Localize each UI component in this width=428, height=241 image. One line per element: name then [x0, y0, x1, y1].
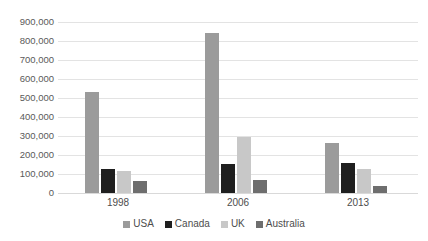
plot-area: [58, 22, 418, 193]
bar-group-1998: [85, 22, 147, 193]
x-tick-label-2006: 2006: [178, 196, 298, 210]
y-tick-label: 400,000: [0, 112, 54, 122]
bar-uk-1998: [117, 171, 131, 193]
y-tick-label: 700,000: [0, 55, 54, 65]
legend-swatch-icon: [165, 221, 172, 228]
y-tick-label: 0: [0, 188, 54, 198]
bar-canada-2013: [341, 163, 355, 193]
y-tick-label: 900,000: [0, 17, 54, 27]
y-tick-label: 600,000: [0, 74, 54, 84]
bar-usa-2013: [325, 143, 339, 193]
y-axis: 0100,000200,000300,000400,000500,000600,…: [0, 0, 54, 241]
legend-item-canada[interactable]: Canada: [165, 218, 210, 230]
bar-australia-1998: [133, 181, 147, 193]
bar-uk-2013: [357, 169, 371, 193]
y-tick-label: 200,000: [0, 150, 54, 160]
chart-legend: USACanadaUKAustralia: [0, 218, 428, 230]
legend-swatch-icon: [221, 221, 228, 228]
bar-usa-1998: [85, 92, 99, 193]
bar-group-2013: [325, 22, 387, 193]
bar-canada-1998: [101, 169, 115, 193]
bar-australia-2006: [253, 180, 267, 193]
y-tick-label: 500,000: [0, 93, 54, 103]
legend-swatch-icon: [123, 221, 130, 228]
bar-usa-2006: [205, 33, 219, 193]
legend-item-uk[interactable]: UK: [221, 218, 245, 230]
gridline: [58, 193, 418, 194]
bar-group-2006: [205, 22, 267, 193]
y-tick-label: 300,000: [0, 131, 54, 141]
bar-australia-2013: [373, 186, 387, 193]
legend-item-australia[interactable]: Australia: [256, 218, 305, 230]
x-axis: 199820062013: [58, 196, 418, 212]
bar-chart: 0100,000200,000300,000400,000500,000600,…: [0, 0, 428, 241]
legend-label: USA: [133, 218, 154, 230]
x-tick-label-1998: 1998: [58, 196, 178, 210]
y-tick-label: 100,000: [0, 169, 54, 179]
legend-label: UK: [231, 218, 245, 230]
legend-label: Australia: [266, 218, 305, 230]
legend-item-usa[interactable]: USA: [123, 218, 154, 230]
y-tick-label: 800,000: [0, 36, 54, 46]
bar-canada-2006: [221, 164, 235, 193]
bar-uk-2006: [237, 137, 251, 193]
x-tick-label-2013: 2013: [298, 196, 418, 210]
legend-label: Canada: [175, 218, 210, 230]
legend-swatch-icon: [256, 221, 263, 228]
